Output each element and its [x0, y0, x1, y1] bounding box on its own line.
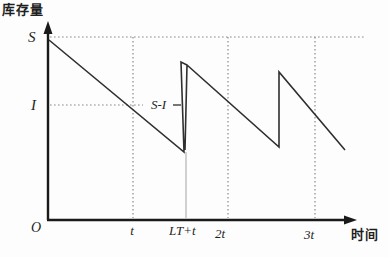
inventory-sawtooth-curve	[49, 40, 345, 152]
t-tick-label: t	[124, 224, 140, 237]
lt-plus-t-tick-label: LT+t	[169, 224, 196, 237]
chart-svg	[0, 0, 389, 257]
x-axis-arrowhead	[344, 216, 357, 225]
y-axis-arrowhead	[44, 21, 53, 34]
origin-label: O	[31, 221, 41, 235]
s-minus-i-annotation: S-I	[151, 98, 166, 111]
inventory-chart: 库存量 S I O t LT+t 2t 3t 时间 S-I	[0, 0, 389, 257]
x-axis-title: 时间	[351, 228, 379, 241]
2t-tick-label: 2t	[215, 227, 225, 240]
s-level-tick-label: S	[28, 30, 36, 45]
y-axis-title: 库存量	[2, 3, 44, 16]
i-level-tick-label: I	[31, 98, 36, 113]
3t-tick-label: 3t	[304, 228, 314, 241]
